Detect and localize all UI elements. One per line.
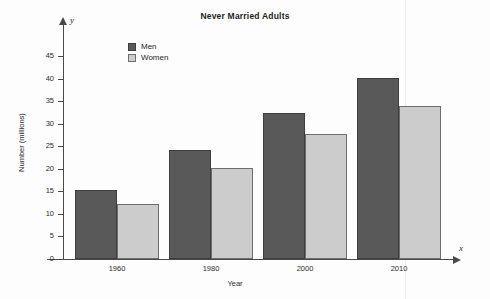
y-axis-tick [58, 236, 64, 237]
y-axis-tick-label-text: 45 [30, 51, 54, 60]
y-axis-tick-label: 30 [30, 119, 54, 129]
y-axis-tick [58, 259, 64, 260]
legend-item-women: Women [128, 52, 168, 63]
legend-label-women: Women [141, 53, 168, 62]
bar-women-1960 [117, 204, 159, 259]
y-axis-tick-label: 0 [30, 254, 54, 264]
plot-area: y x 051015202530354045 1960198020002010 … [0, 0, 490, 299]
y-axis-tick [58, 191, 64, 192]
y-axis-tick [58, 56, 64, 57]
y-axis-tick-label: 35 [30, 96, 54, 106]
x-axis-tick-label: 2000 [275, 264, 335, 273]
y-axis-tick-label-text: 20 [30, 164, 54, 173]
legend-swatch-women [128, 54, 136, 62]
legend-swatch-men [128, 43, 136, 51]
bar-men-1980 [169, 150, 211, 259]
y-axis-tick [58, 214, 64, 215]
y-axis-line [63, 24, 64, 260]
y-axis-arrow-icon [59, 17, 67, 25]
y-axis-tick [58, 79, 64, 80]
y-axis-tick-label: 45 [30, 51, 54, 61]
bar-women-1980 [211, 168, 253, 259]
y-axis-tick-label-text: 15 [30, 186, 54, 195]
y-axis-tick-label-text: 25 [30, 141, 54, 150]
y-axis-tick-label-text: 35 [30, 96, 54, 105]
y-axis-tick [58, 101, 64, 102]
bar-men-2000 [263, 113, 305, 259]
y-axis-tick-label: 15 [30, 186, 54, 196]
x-axis-arrow-icon [453, 256, 461, 264]
y-axis-tick-label: 5 [30, 231, 54, 241]
y-axis-title: Number (millions) [17, 93, 26, 193]
chart-legend: MenWomen [128, 41, 168, 63]
y-axis-tick-label: 10 [30, 209, 54, 219]
bar-women-2010 [399, 106, 441, 259]
legend-item-men: Men [128, 41, 168, 52]
y-axis-tick-label-text: 10 [30, 209, 54, 218]
y-axis-tick [58, 169, 64, 170]
bar-men-1960 [75, 190, 117, 259]
y-axis-tick-label: 20 [30, 164, 54, 174]
y-axis-tick-label-text: 40 [30, 74, 54, 83]
y-axis-tick-label-text: 30 [30, 119, 54, 128]
x-axis-title: Year [195, 279, 275, 288]
x-axis-tick-label: 2010 [369, 264, 429, 273]
y-axis-tick-label-text: 0 [30, 254, 54, 263]
y-axis-tick-label: 25 [30, 141, 54, 151]
x-axis-tick-label: 1960 [87, 264, 147, 273]
y-axis-tick-label-text: 5 [30, 231, 54, 240]
y-axis-tick [58, 124, 64, 125]
x-axis-tick-label: 1980 [181, 264, 241, 273]
legend-label-men: Men [141, 42, 157, 51]
x-axis-line [47, 259, 454, 260]
chart-screenshot: Never Married Adults y x 051015202530354… [0, 0, 490, 299]
y-axis-tick-label: 40 [30, 74, 54, 84]
bar-women-2000 [305, 134, 347, 259]
y-axis-letter: y [70, 15, 74, 25]
x-axis-letter: x [459, 243, 463, 253]
y-axis-tick [58, 146, 64, 147]
bar-men-2010 [357, 78, 399, 259]
